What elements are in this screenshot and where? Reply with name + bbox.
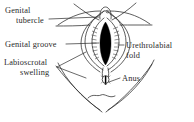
label-genital-groove-line1: Genital groove (5, 40, 57, 50)
label-urethrolabial-fold-line1: Urethrolabial (126, 41, 172, 51)
label-genital-tubercle: Genital tubercle (5, 6, 44, 25)
genital-groove-shape (100, 22, 111, 65)
leader-line-genital-tubercle (49, 17, 99, 19)
buttock-fold-left (56, 66, 102, 112)
leader-line-anus (109, 78, 120, 82)
tubercle-dot-core (107, 11, 108, 12)
label-anus-line1: Anus (122, 74, 140, 84)
leader-line-genital-groove (66, 43, 99, 44)
label-labioscrotal-swelling-line1: Labioscrotal (4, 58, 49, 68)
label-urethrolabial-fold: Urethrolabial fold (126, 41, 172, 60)
label-labioscrotal-swelling: Labioscrotal swelling (4, 58, 49, 77)
leader-line-labioscrotal-a (57, 52, 86, 67)
label-labioscrotal-swelling-line2: swelling (4, 68, 49, 78)
label-anus: Anus (122, 74, 140, 84)
label-urethrolabial-fold-line2: fold (126, 51, 172, 61)
label-genital-groove: Genital groove (5, 40, 57, 50)
gluteal-crease (88, 95, 115, 98)
anatomical-figure: Genital tubercle Genital groove Labioscr… (0, 0, 194, 122)
label-genital-tubercle-line1: Genital (5, 6, 44, 16)
thigh-line-left-upper (56, 25, 90, 26)
thigh-contour-right (108, 60, 154, 110)
anus-point (105, 83, 107, 85)
label-genital-tubercle-line2: tubercle (5, 16, 44, 26)
